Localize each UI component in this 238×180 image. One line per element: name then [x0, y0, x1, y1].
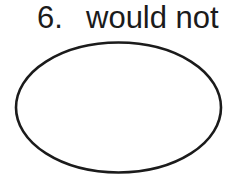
answer-oval-svg — [0, 0, 238, 180]
answer-oval — [16, 43, 221, 173]
worksheet-item: 6. would not — [0, 0, 238, 180]
